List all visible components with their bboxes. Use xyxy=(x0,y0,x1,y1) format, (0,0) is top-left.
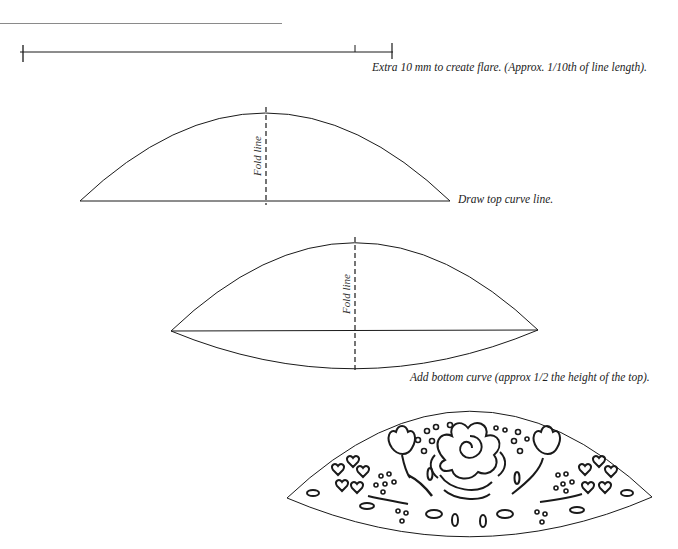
step3-caption: Add bottom curve (approx 1/2 the height … xyxy=(410,371,650,383)
step2-caption: Draw top curve line. xyxy=(458,193,553,205)
step1-caption: Extra 10 mm to create flare. (Approx. 1/… xyxy=(372,61,647,73)
step2-fold-label: Fold line xyxy=(251,131,263,181)
step2-shape xyxy=(80,107,450,205)
diagram-canvas xyxy=(0,0,678,549)
step3-fold-label: Fold line xyxy=(340,269,352,319)
step4-decorated-shape xyxy=(287,411,652,537)
step3-shape xyxy=(171,237,538,373)
step1-measure-line xyxy=(20,43,393,62)
